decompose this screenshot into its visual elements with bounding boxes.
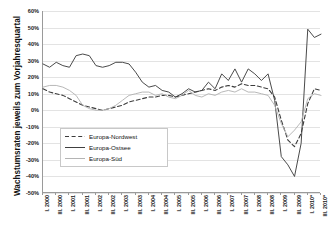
x-axis-tick: III. 2001 [82,193,92,243]
legend-item: Europa-Nordwest [64,131,164,142]
x-axis-tick-label: III. 2010* [321,195,329,239]
x-axis-tick: III. 2000 [55,193,65,243]
x-axis-tick: I. 2000 [42,193,52,243]
x-axis-tick-label: I. 2000 [43,195,51,239]
chart-legend: Europa-NordwestEuropa-OstseeEuropa-Süd [60,128,168,167]
x-axis-tick-label: I. 2001 [69,195,77,239]
x-axis-tick: III. 2009 [294,193,304,243]
x-axis-tick-label: III. 2003 [136,195,144,239]
x-axis-tick: III. 2006 [214,193,224,243]
x-axis-tick: I. 2008 [254,193,264,243]
x-axis-tick-label: I. 2008 [255,195,263,239]
x-axis-tick: III. 2008 [267,193,277,243]
y-axis-tick-label: 20% [1,74,39,80]
y-axis-tick-label: 50% [1,25,39,31]
y-axis-tick-labels: 60%50%40%30%20%10%0%-10%-20%-30%-40%-50% [0,0,42,200]
x-axis-tick-label: III. 2005 [189,195,197,239]
x-axis-tick-label: I. 2009 [281,195,289,239]
x-axis-tick-label: III. 2001 [83,195,91,239]
x-axis-tick: III. 2002 [108,193,118,243]
x-axis-tick: I. 2005 [174,193,184,243]
x-axis-tick: I. 2004 [148,193,158,243]
x-axis-tick: III. 2003 [135,193,145,243]
legend-label: Europa-Ostsee [86,144,131,151]
x-axis-tick: I. 2003 [121,193,131,243]
x-axis-tick: I. 2001 [68,193,78,243]
x-axis-tick-label: III. 2002 [109,195,117,239]
solid-dark-line-swatch [64,143,86,152]
x-axis-tick-label: III. 2000 [56,195,64,239]
x-axis-tick-label: I. 2005 [175,195,183,239]
x-axis-tick: I. 2002 [95,193,105,243]
dashed-line-swatch [64,132,86,141]
x-axis-tick-label: III. 2004 [162,195,170,239]
x-axis-tick: I. 2006 [201,193,211,243]
y-axis-tick-label: 0% [1,107,39,113]
y-axis-tick-label: 30% [1,58,39,64]
y-axis-tick-label: 40% [1,41,39,47]
legend-label: Europa-Nordwest [86,133,137,140]
y-axis-tick-label: -40% [1,173,39,179]
x-axis-tick: III. 2007 [241,193,251,243]
y-axis-tick-label: -20% [1,140,39,146]
x-axis-tick-label: III. 2008 [268,195,276,239]
x-axis-tick-label: I. 2004 [149,195,157,239]
solid-gray-line-swatch [64,154,86,163]
y-axis-tick-label: -50% [1,190,39,196]
legend-label: Europa-Süd [86,155,122,162]
x-axis-tick: I. 2010* [307,193,317,243]
legend-item: Europa-Süd [64,153,164,164]
x-axis-tick: I. 2007 [227,193,237,243]
x-axis-tick-label: I. 2007 [228,195,236,239]
x-axis-tick: III. 2010* [320,193,330,243]
y-axis-tick-label: -10% [1,124,39,130]
x-axis-tick-label: III. 2007 [242,195,250,239]
x-axis-tick: III. 2004 [161,193,171,243]
x-axis-tick-label: III. 2009 [295,195,303,239]
y-axis-tick-label: -30% [1,157,39,163]
x-axis-tick: I. 2009 [280,193,290,243]
y-axis-tick-label: 60% [1,8,39,14]
x-axis-tick-label: I. 2002 [96,195,104,239]
x-axis-tick-labels: I. 2000III. 2000I. 2001III. 2001I. 2002I… [42,193,324,244]
x-axis-tick: III. 2005 [188,193,198,243]
x-axis-tick-label: I. 2003 [122,195,130,239]
y-axis-tick-label: 10% [1,91,39,97]
x-axis-tick-label: III. 2006 [215,195,223,239]
x-axis-tick-label: I. 2006 [202,195,210,239]
legend-item: Europa-Ostsee [64,142,164,153]
x-axis-tick-label: I. 2010* [308,195,316,239]
